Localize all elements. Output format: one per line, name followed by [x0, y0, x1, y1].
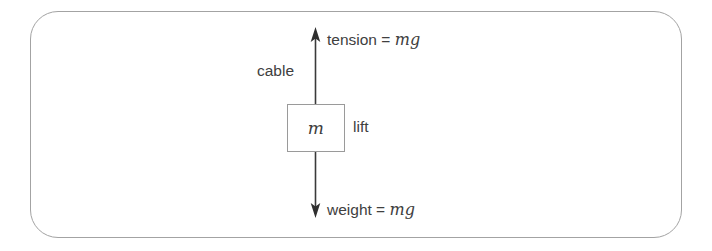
diagram-canvas: m tension = mg cable lift weight = mg	[0, 0, 712, 251]
weight-force-label: weight = mg	[327, 202, 415, 218]
lift-body-box: m	[287, 104, 345, 152]
tension-label-text: tension =	[327, 31, 395, 48]
weight-magnitude: mg	[389, 200, 415, 219]
cable-label: cable	[257, 63, 294, 79]
mass-symbol: m	[308, 120, 324, 137]
tension-magnitude: mg	[395, 30, 421, 49]
lift-label: lift	[353, 119, 369, 135]
tension-force-label: tension = mg	[327, 32, 420, 48]
weight-label-text: weight =	[327, 201, 389, 218]
